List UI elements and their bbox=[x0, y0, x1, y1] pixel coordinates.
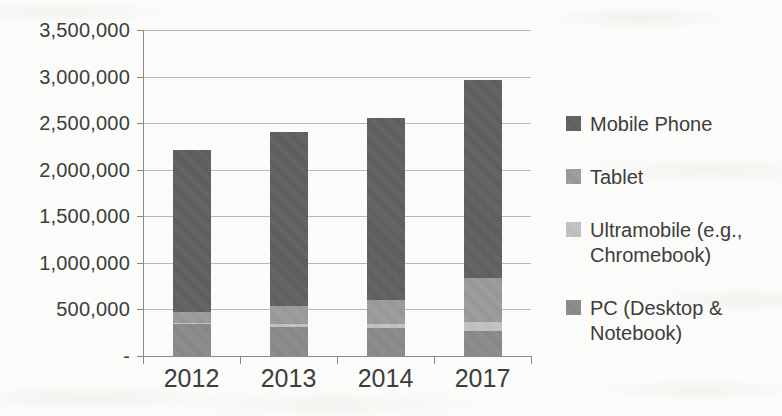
legend-label: Ultramobile (e.g., Chromebook) bbox=[590, 218, 742, 268]
bar-segment-2014-pc-desktop-notebook bbox=[367, 328, 405, 356]
bar-segment-2012-tablet bbox=[173, 312, 211, 323]
y-axis-line bbox=[143, 30, 144, 356]
bar-segment-2012-pc-desktop-notebook bbox=[173, 324, 211, 356]
legend-swatch-icon bbox=[566, 300, 581, 315]
x-axis-tick bbox=[143, 356, 144, 364]
bar-segment-2013-tablet bbox=[270, 306, 308, 324]
y-axis-label: 3,500,000 bbox=[0, 20, 130, 41]
legend-item: Ultramobile (e.g., Chromebook) bbox=[566, 218, 776, 268]
y-axis-label: 1,500,000 bbox=[0, 206, 130, 227]
x-axis-label-2012: 2012 bbox=[143, 365, 240, 392]
x-axis-tick bbox=[531, 356, 532, 364]
x-axis-tick bbox=[337, 356, 338, 364]
y-axis-label: - bbox=[0, 346, 130, 367]
legend-label: PC (Desktop & Notebook) bbox=[590, 296, 722, 346]
x-axis-tick bbox=[240, 356, 241, 364]
bar-segment-2014-tablet bbox=[367, 300, 405, 324]
bar-segment-2013-ultramobile-e-g-chromebook bbox=[270, 324, 308, 327]
x-axis-label-2017: 2017 bbox=[434, 365, 531, 392]
legend-item: Mobile Phone bbox=[566, 112, 776, 137]
y-axis-label: 1,000,000 bbox=[0, 253, 130, 274]
y-axis-label: 2,500,000 bbox=[0, 113, 130, 134]
bar-segment-2017-mobile-phone bbox=[464, 80, 502, 278]
bar-segment-2014-ultramobile-e-g-chromebook bbox=[367, 324, 405, 328]
bar-segment-2012-mobile-phone bbox=[173, 150, 211, 312]
legend-item: Tablet bbox=[566, 165, 776, 190]
legend-item: PC (Desktop & Notebook) bbox=[566, 296, 776, 346]
legend-swatch-icon bbox=[566, 222, 581, 237]
x-axis-label-2014: 2014 bbox=[337, 365, 434, 392]
gridline-3000000 bbox=[143, 77, 531, 78]
bar-segment-2017-tablet bbox=[464, 278, 502, 322]
legend-label: Mobile Phone bbox=[590, 112, 712, 137]
y-axis-label: 3,000,000 bbox=[0, 67, 130, 88]
chart-legend: Mobile PhoneTabletUltramobile (e.g., Chr… bbox=[566, 112, 776, 374]
x-axis-tick bbox=[434, 356, 435, 364]
bar-segment-2014-mobile-phone bbox=[367, 118, 405, 300]
legend-swatch-icon bbox=[566, 116, 581, 131]
bar-segment-2012-ultramobile-e-g-chromebook bbox=[173, 323, 211, 324]
bar-segment-2017-pc-desktop-notebook bbox=[464, 331, 502, 356]
gridline-3500000 bbox=[143, 30, 531, 31]
y-axis-label: 500,000 bbox=[0, 299, 130, 320]
x-axis-line bbox=[137, 356, 531, 357]
bar-segment-2013-mobile-phone bbox=[270, 132, 308, 306]
bar-segment-2017-ultramobile-e-g-chromebook bbox=[464, 322, 502, 331]
y-axis-label: 2,000,000 bbox=[0, 160, 130, 181]
scanned-page: 3,500,0003,000,0002,500,0002,000,0001,50… bbox=[0, 0, 782, 416]
legend-swatch-icon bbox=[566, 169, 581, 184]
bar-segment-2013-pc-desktop-notebook bbox=[270, 327, 308, 356]
legend-label: Tablet bbox=[590, 165, 643, 190]
x-axis-label-2013: 2013 bbox=[240, 365, 337, 392]
